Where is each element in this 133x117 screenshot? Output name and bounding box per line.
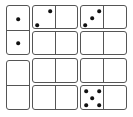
pip — [83, 23, 87, 27]
domino-divider — [7, 30, 29, 31]
pip — [16, 17, 20, 21]
pip — [48, 9, 52, 13]
pip — [97, 89, 101, 93]
domino-divider — [103, 59, 104, 82]
domino-divider — [55, 6, 56, 28]
domino-divider — [55, 86, 56, 109]
pip — [16, 41, 20, 45]
domino-divider — [55, 32, 56, 54]
domino-2-4[interactable] — [32, 85, 78, 110]
domino-2-1[interactable] — [32, 5, 78, 29]
domino-3-1[interactable] — [80, 5, 127, 29]
pip — [90, 16, 94, 20]
domino-divider — [103, 6, 104, 28]
domino-3-4[interactable] — [80, 85, 127, 110]
domino-2-2[interactable] — [32, 31, 78, 55]
pip — [97, 9, 101, 13]
domino-divider — [103, 86, 104, 109]
pip — [90, 96, 94, 100]
domino-2-3[interactable] — [32, 58, 78, 83]
pip — [84, 103, 88, 107]
pip — [97, 103, 101, 107]
pip — [84, 89, 88, 93]
domino-divider — [55, 59, 56, 82]
domino-divider — [103, 32, 104, 54]
domino-3-3[interactable] — [80, 58, 127, 83]
domino-1-1[interactable] — [6, 5, 30, 55]
domino-3-2[interactable] — [80, 31, 127, 55]
domino-1-2[interactable] — [6, 60, 30, 110]
domino-divider — [7, 85, 29, 86]
pip — [35, 23, 39, 27]
